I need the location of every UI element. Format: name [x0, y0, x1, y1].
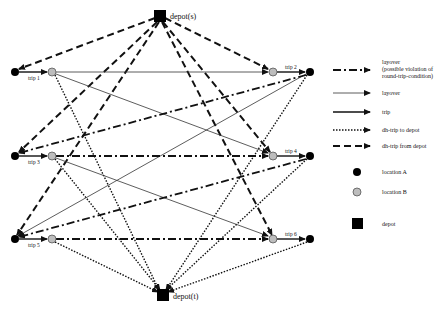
depot-icon — [352, 218, 363, 229]
legend-label: location B — [382, 189, 407, 195]
location-b-nodes — [48, 68, 277, 243]
trip-label: trip 5 — [28, 242, 40, 248]
legend-label: trip — [382, 109, 390, 115]
dh-trips-to-depot — [55, 75, 307, 292]
location-a-icon — [353, 168, 361, 176]
legend-sublabel: (possible violation of — [382, 66, 433, 73]
depot-s-node — [154, 10, 166, 22]
legend-label: location A — [382, 169, 407, 175]
depot-s-label: depot(s) — [170, 12, 197, 21]
trip-label: trip 6 — [285, 231, 297, 237]
legend-label: layover — [382, 59, 400, 65]
layover-violation-edges — [19, 75, 306, 239]
trip-label: trip 3 — [28, 159, 40, 165]
trip-label: trip 2 — [285, 64, 297, 70]
location-b-icon — [353, 188, 361, 196]
trip-label: trip 1 — [28, 75, 40, 81]
legend-label: layover — [382, 90, 400, 96]
layover-edges — [18, 72, 306, 236]
legend-label: dh-trip from depot — [382, 143, 427, 149]
legend: layover (possible violation of round-tri… — [333, 59, 433, 229]
depot-t-node — [157, 289, 169, 301]
trip-label: trip 4 — [285, 148, 297, 154]
vehicle-scheduling-graph: depot(s) depot(t) trip 1 trip 2 trip 3 t… — [0, 0, 443, 310]
depot-t-label: depot(t) — [173, 292, 199, 301]
legend-label: dh-trip to depot — [382, 127, 420, 133]
legend-sublabel: round-trip-condition) — [382, 73, 433, 80]
legend-label: depot — [382, 221, 396, 227]
